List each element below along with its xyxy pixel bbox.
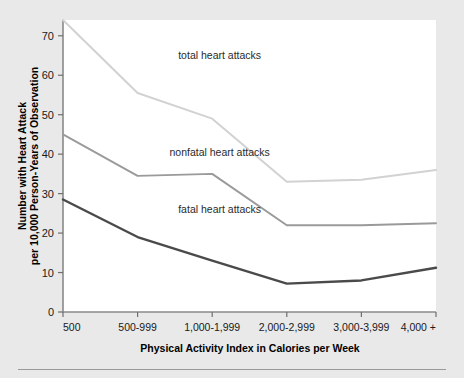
x-axis-ticks: 500500-9991,000-1,9992,000-2,9993,000-3,…: [63, 312, 436, 333]
y-axis-ticks: 010203040506070: [42, 30, 63, 318]
series-annotation: total heart attacks: [178, 49, 261, 61]
chart-figure: 010203040506070 500500-9991,000-1,9992,0…: [0, 0, 464, 378]
y-tick-label: 40: [42, 148, 54, 160]
x-tick-label: 500: [63, 321, 81, 333]
x-tick-label: 500-999: [118, 321, 157, 333]
line-chart: 010203040506070 500500-9991,000-1,9992,0…: [0, 0, 464, 378]
y-tick-label: 30: [42, 188, 54, 200]
y-tick-label: 60: [42, 69, 54, 81]
y-tick-label: 10: [42, 267, 54, 279]
y-axis-title-line1: Number with Heart Attack: [16, 102, 28, 230]
footer-divider: [18, 369, 446, 370]
x-tick-label: 4,000 +: [401, 321, 436, 333]
x-tick-label: 2,000-2,999: [259, 321, 315, 333]
y-tick-label: 0: [48, 306, 54, 318]
y-axis-title-line2: per 10,000 Person-Years of Observation: [28, 67, 40, 265]
y-tick-label: 70: [42, 30, 54, 42]
y-tick-label: 20: [42, 227, 54, 239]
x-tick-label: 1,000-1,999: [184, 321, 240, 333]
series-annotation: fatal heart attacks: [178, 203, 261, 215]
y-tick-label: 50: [42, 109, 54, 121]
series-annotation: nonfatal heart attacks: [169, 146, 269, 158]
x-axis-title: Physical Activity Index in Calories per …: [140, 342, 360, 354]
x-tick-label: 3,000-3,999: [333, 321, 389, 333]
series-annotations: total heart attacksnonfatal heart attack…: [169, 49, 269, 215]
